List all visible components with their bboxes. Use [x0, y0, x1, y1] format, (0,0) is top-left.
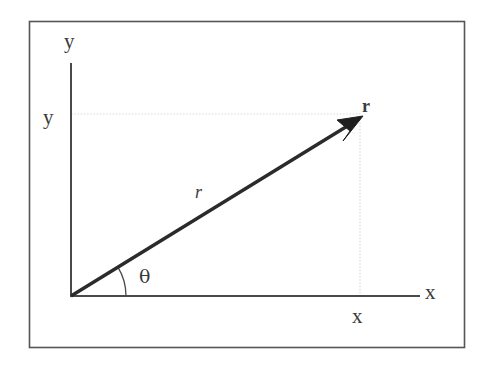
y-component-label: y	[43, 107, 54, 128]
magnitude-r-label: r	[195, 183, 202, 201]
figure-background	[0, 0, 491, 368]
x-axis-label: x	[425, 282, 436, 303]
y-axis-label: y	[64, 31, 75, 52]
angle-theta-label: θ	[139, 267, 150, 286]
vector-diagram-svg	[0, 0, 491, 368]
figure-root: y x y x r r θ	[0, 0, 491, 368]
x-component-label: x	[352, 306, 363, 327]
vector-r-label: r	[362, 97, 370, 115]
